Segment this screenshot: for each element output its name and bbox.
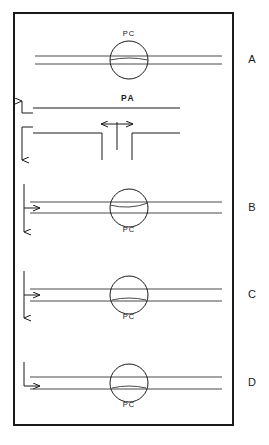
- panel-b-pc-circle: [110, 189, 148, 227]
- panel-label-c: C: [248, 288, 256, 300]
- panel-label-d: D: [248, 376, 256, 388]
- panel-d: [24, 362, 222, 402]
- panel-d-pc-label: PC: [123, 400, 136, 409]
- panel-c-pc-inner-curve: [112, 298, 146, 300]
- pa-down-arrow-elbow: [22, 127, 33, 160]
- panel-d-pc-inner-curve: [112, 386, 146, 388]
- pa-label: PA: [121, 93, 135, 103]
- panel-a: [35, 41, 222, 79]
- pa-up-arrow-elbow: [22, 101, 33, 113]
- panel-d-inlet-elbow-arrow: [24, 362, 40, 386]
- panel-c: [24, 271, 222, 318]
- schematic-diagram: PC PA PC PC PC A B C D: [0, 0, 269, 445]
- panel-pa: [22, 101, 180, 160]
- panel-d-pc-circle: [110, 364, 148, 402]
- panel-c-pc-label: PC: [123, 312, 136, 321]
- panel-a-pc-label: PC: [123, 29, 136, 38]
- panel-label-b: B: [248, 201, 255, 213]
- panel-a-pc-circle: [110, 41, 148, 79]
- panel-b-pc-label: PC: [123, 225, 136, 234]
- figure-container: PC PA PC PC PC A B C D: [0, 0, 269, 445]
- panel-label-a: A: [248, 53, 256, 65]
- panel-b-pc-inner-curve: [110, 203, 148, 207]
- diagram-border: [14, 13, 233, 425]
- panel-c-pc-circle: [110, 276, 148, 314]
- panel-a-pc-inner-curve: [110, 58, 148, 60]
